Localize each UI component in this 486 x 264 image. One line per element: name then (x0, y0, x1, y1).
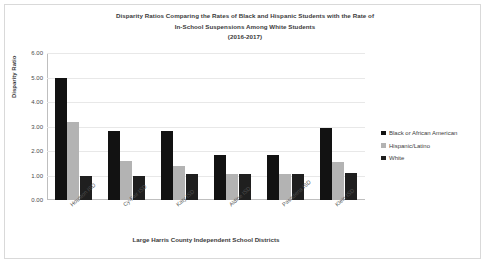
y-axis-tick-label: 0.00 (31, 197, 43, 203)
bar-group (47, 53, 100, 200)
bar (214, 155, 226, 200)
legend-swatch-icon (381, 156, 386, 161)
chart-title-line-3: (2016-2017) (60, 32, 430, 43)
chart-title-line-1: Disparity Ratios Comparing the Rates of … (60, 11, 430, 22)
legend-swatch-icon (381, 131, 386, 136)
legend-item: Hispanic/Latino (381, 143, 457, 149)
bar (67, 122, 79, 200)
y-axis-tick-label: 4.00 (31, 99, 43, 105)
legend-label: Hispanic/Latino (389, 143, 430, 149)
chart-container: Disparity Ratios Comparing the Rates of … (0, 0, 486, 264)
bar-group (312, 53, 365, 200)
legend-swatch-icon (381, 143, 386, 148)
chart-title-line-2: In-School Suspensions Among White Studen… (60, 22, 430, 33)
bar (267, 155, 279, 200)
y-axis-tick-label: 5.00 (31, 75, 43, 81)
y-axis-tick-label: 2.00 (31, 148, 43, 154)
y-axis-tick-label: 6.00 (31, 50, 43, 56)
legend-item: Black or African American (381, 130, 457, 136)
bar (161, 131, 173, 200)
legend-item: White (381, 155, 457, 161)
y-axis-title: Disparity Ratio (11, 56, 17, 98)
bar (320, 128, 332, 200)
chart-legend: Black or African AmericanHispanic/Latino… (381, 130, 457, 168)
bar-group (153, 53, 206, 200)
bar (108, 131, 120, 200)
y-axis-tick-label: 1.00 (31, 173, 43, 179)
chart-title: Disparity Ratios Comparing the Rates of … (60, 11, 430, 43)
legend-label: Black or African American (389, 130, 457, 136)
bar-group (259, 53, 312, 200)
plot-area: 0.001.002.003.004.005.006.00 (47, 53, 365, 200)
bar (55, 78, 67, 201)
bar-group (100, 53, 153, 200)
y-axis-tick-label: 3.00 (31, 124, 43, 130)
legend-label: White (389, 155, 404, 161)
x-axis-title: Large Harris County Independent School D… (47, 236, 365, 243)
bar-group (206, 53, 259, 200)
